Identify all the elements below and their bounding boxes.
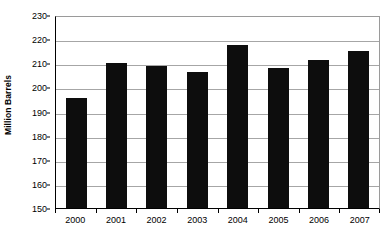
- plot-area: [55, 16, 380, 209]
- y-axis-tick-mark: [47, 112, 50, 113]
- y-axis-tick-label: 150: [32, 204, 47, 214]
- bar-slot: [137, 17, 177, 208]
- bar-series: [56, 17, 379, 208]
- bar-2007[interactable]: [348, 51, 369, 208]
- y-axis-tick-label: 230: [32, 11, 47, 21]
- bar-2006[interactable]: [308, 60, 329, 208]
- y-axis-tick-mark: [47, 184, 50, 185]
- bar-slot: [56, 17, 96, 208]
- bar-2000[interactable]: [66, 98, 87, 208]
- x-axis-tick-label: 2006: [299, 213, 340, 231]
- y-axis-title: Million Barrels: [0, 0, 16, 209]
- x-axis-tick-label: 2004: [218, 213, 259, 231]
- x-axis-tick-label: 2001: [96, 213, 137, 231]
- y-axis-tick-label: 170: [32, 156, 47, 166]
- bar-slot: [177, 17, 217, 208]
- y-axis-tick-mark: [47, 64, 50, 65]
- bar-slot: [258, 17, 298, 208]
- x-axis-tick-label: 2000: [55, 213, 96, 231]
- bar-chart: Million Barrels 150160170180190200210220…: [0, 0, 392, 237]
- bar-slot: [218, 17, 258, 208]
- x-axis-tick-label: 2005: [258, 213, 299, 231]
- y-axis-title-label: Million Barrels: [3, 74, 13, 134]
- y-axis-tick-label: 180: [32, 132, 47, 142]
- x-axis-tick-label: 2003: [177, 213, 218, 231]
- y-axis-tick-mark: [47, 40, 50, 41]
- y-axis-tick-label: 210: [32, 59, 47, 69]
- y-axis-tick-mark: [47, 209, 50, 210]
- bar-2002[interactable]: [146, 66, 167, 208]
- bar-slot: [298, 17, 338, 208]
- y-axis-tick-mark: [47, 160, 50, 161]
- y-axis-tick-mark: [47, 88, 50, 89]
- x-axis-tick-label: 2007: [339, 213, 380, 231]
- y-axis-tick-labels: 150160170180190200210220230: [16, 16, 50, 209]
- bar-2004[interactable]: [227, 45, 248, 208]
- x-axis-tick-label: 2002: [136, 213, 177, 231]
- bar-2001[interactable]: [106, 63, 127, 208]
- bar-slot: [339, 17, 379, 208]
- y-axis-tick-label: 200: [32, 83, 47, 93]
- x-axis-tick-labels: 20002001200220032004200520062007: [55, 213, 380, 231]
- bar-2003[interactable]: [187, 72, 208, 208]
- y-axis-tick-label: 190: [32, 108, 47, 118]
- y-axis-tick-label: 160: [32, 180, 47, 190]
- y-axis-tick-label: 220: [32, 35, 47, 45]
- y-axis-tick-mark: [47, 16, 50, 17]
- bar-slot: [96, 17, 136, 208]
- bar-2005[interactable]: [268, 68, 289, 208]
- y-axis-tick-mark: [47, 136, 50, 137]
